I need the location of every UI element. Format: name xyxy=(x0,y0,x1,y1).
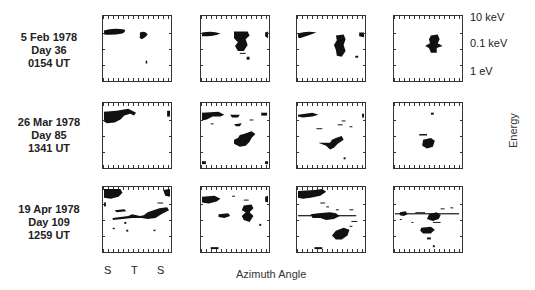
panel-r2-c3 xyxy=(296,102,366,169)
spectrogram-image xyxy=(201,16,269,81)
row-1-date: 5 Feb 1978 xyxy=(2,31,96,44)
y-tick-10kev: 10 keV xyxy=(470,11,504,23)
panel-r3-c3 xyxy=(296,186,366,253)
spectrogram-image xyxy=(201,103,269,168)
row-1-time: 0154 UT xyxy=(2,57,96,70)
panel-r3-c2 xyxy=(200,186,270,253)
spectrogram-image xyxy=(297,16,365,81)
spectrogram-image xyxy=(103,103,171,168)
spectrogram-image xyxy=(394,103,462,168)
spectrogram-image xyxy=(297,103,365,168)
x-tick-s2: S xyxy=(157,264,164,276)
panel-r1-c4 xyxy=(393,15,463,82)
y-tick-1ev: 1 eV xyxy=(470,65,493,77)
row-label-3: 19 Apr 1978 Day 109 1259 UT xyxy=(2,203,96,242)
row-2-day: Day 85 xyxy=(2,129,96,142)
spectrogram-image xyxy=(103,187,171,252)
panel-r2-c4 xyxy=(393,102,463,169)
panel-r3-c1 xyxy=(102,186,172,253)
spectrogram-image xyxy=(103,16,171,81)
panel-r2-c2 xyxy=(200,102,270,169)
row-1-day: Day 36 xyxy=(2,44,96,57)
row-2-time: 1341 UT xyxy=(2,142,96,155)
row-3-date: 19 Apr 1978 xyxy=(2,203,96,216)
row-3-day: Day 109 xyxy=(2,216,96,229)
spectrogram-image xyxy=(297,187,365,252)
spectrogram-image xyxy=(394,187,462,252)
panel-r1-c3 xyxy=(296,15,366,82)
spectrogram-image xyxy=(201,187,269,252)
panel-r3-c4 xyxy=(393,186,463,253)
spectrogram-image xyxy=(394,16,462,81)
row-label-1: 5 Feb 1978 Day 36 0154 UT xyxy=(2,31,96,70)
x-tick-t: T xyxy=(131,264,138,276)
panel-r1-c1 xyxy=(102,15,172,82)
y-axis-title: Energy xyxy=(507,113,519,148)
x-tick-s1: S xyxy=(104,264,111,276)
row-3-time: 1259 UT xyxy=(2,229,96,242)
x-axis-title: Azimuth Angle xyxy=(236,268,306,280)
y-tick-0.1kev: 0.1 keV xyxy=(470,37,507,49)
row-2-date: 26 Mar 1978 xyxy=(2,116,96,129)
panel-r1-c2 xyxy=(200,15,270,82)
panel-r2-c1 xyxy=(102,102,172,169)
row-label-2: 26 Mar 1978 Day 85 1341 UT xyxy=(2,116,96,155)
